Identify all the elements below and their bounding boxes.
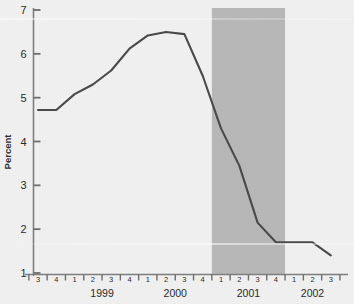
x-quarter-label: 1 [146,275,150,284]
recession-band [212,8,285,275]
shaded-region-group [212,8,285,275]
x-year-label: 2000 [164,287,188,299]
x-quarter-label: 3 [182,275,186,284]
y-tick-label: 4 [20,136,26,148]
y-tick-label: 5 [20,92,26,104]
x-quarter-label: 1 [292,275,296,284]
x-quarter-label: 4 [274,275,278,284]
x-quarter-label: 4 [54,275,58,284]
chart-background [0,0,354,304]
x-quarter-label: 3 [329,275,333,284]
x-quarter-label: 1 [219,275,223,284]
line-chart: 1234567 34123412341234123 19992000200120… [0,0,354,304]
x-quarter-label: 3 [256,275,260,284]
x-quarter-label: 2 [237,275,241,284]
x-quarter-label: 2 [310,275,314,284]
x-quarter-label: 1 [73,275,77,284]
x-year-label: 1999 [90,287,114,299]
x-year-label: 2001 [237,287,261,299]
x-quarter-label: 4 [201,275,205,284]
y-axis-title: Percent [2,134,13,170]
x-quarter-label: 3 [109,275,113,284]
x-quarter-label: 3 [36,275,40,284]
x-quarter-label: 4 [127,275,131,284]
y-tick-label: 2 [20,223,26,235]
y-tick-label: 3 [20,179,26,191]
x-year-label: 2002 [301,287,325,299]
chart-container: 1234567 34123412341234123 19992000200120… [0,0,354,304]
y-tick-label: 6 [20,48,26,60]
y-tick-label: 1 [20,267,26,279]
x-quarter-label: 2 [164,275,168,284]
y-tick-label: 7 [20,4,26,16]
x-quarter-label: 2 [91,275,95,284]
